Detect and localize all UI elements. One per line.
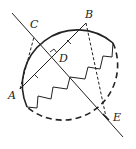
geometry-diagram: C B D A E: [0, 0, 136, 149]
label-c: C: [30, 19, 38, 30]
line-ce: [12, 13, 123, 137]
label-a: A: [8, 90, 16, 101]
tick-mark-ad: [34, 74, 38, 78]
diagram-svg: [0, 0, 136, 149]
label-e: E: [113, 112, 121, 123]
label-b: B: [85, 9, 93, 20]
point-e-mark: [103, 114, 109, 120]
zigzag-break-line: [27, 43, 113, 108]
label-d: D: [59, 53, 68, 64]
segment-be-dashed: [86, 23, 106, 117]
